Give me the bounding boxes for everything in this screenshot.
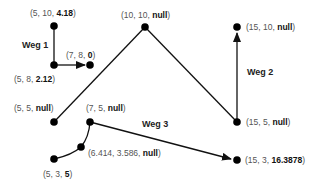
node-label: (7, 5, null)	[86, 103, 126, 113]
node-label: (5, 10, 4.18)	[30, 8, 76, 18]
node-label: (5, 8, 2.12)	[14, 74, 55, 84]
way-2	[54, 27, 237, 122]
node-15-10	[233, 23, 241, 31]
node-label: (6.414, 3.586, null)	[88, 148, 161, 158]
node-label: (15, 10, null)	[246, 22, 295, 32]
node-5-8	[50, 61, 58, 69]
node-15-5	[233, 118, 241, 126]
edge	[145, 27, 237, 122]
node-10-10	[141, 23, 149, 31]
node-label: (5, 3, 5)	[43, 169, 72, 179]
diagram-canvas: (5, 10, 4.18) (5, 8, 2.12) (7, 8, 0) (10…	[0, 0, 322, 186]
node-label: (15, 3, 16.3878)	[245, 155, 305, 165]
node-label: (5, 5, null)	[14, 103, 54, 113]
node-5-5	[50, 118, 58, 126]
node-15-3	[233, 156, 241, 164]
node-7-8	[86, 61, 94, 69]
nodes	[50, 22, 241, 164]
way-label-1: Weg 1	[22, 40, 48, 50]
edge-arc	[54, 122, 90, 159]
node-label: (7, 8, 0)	[66, 50, 95, 60]
node-5-3	[50, 155, 58, 163]
node-labels: (5, 10, 4.18) (5, 8, 2.12) (7, 8, 0) (10…	[14, 8, 305, 179]
node-7-5	[86, 118, 94, 126]
way-label-2: Weg 2	[247, 67, 273, 77]
node-6414-3586	[77, 143, 85, 151]
node-label: (15, 5, null)	[246, 117, 291, 127]
way-label-3: Weg 3	[142, 119, 168, 129]
node-5-10	[50, 22, 58, 30]
node-label: (10, 10, null)	[121, 10, 170, 20]
